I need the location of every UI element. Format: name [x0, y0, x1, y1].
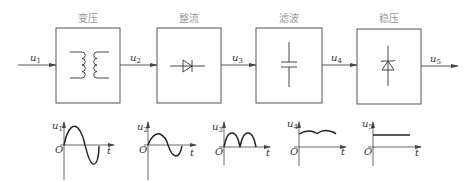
- waveform-u3: u3 O t: [212, 121, 271, 165]
- time-label-u2: t: [190, 147, 195, 158]
- origin-label-u3: O: [215, 146, 223, 157]
- stage-box-transform: [56, 28, 120, 103]
- stage-label-filter: 滤波: [279, 12, 299, 24]
- waveform-u4: u4 O t: [287, 118, 346, 166]
- stage-box-regulate: [357, 29, 421, 104]
- signal-label-u4: u4: [331, 52, 342, 65]
- axis-label-u2: u2: [137, 121, 148, 134]
- axis-label-u4: u4: [287, 118, 298, 131]
- stage-label-transform: 变压: [78, 12, 98, 24]
- axis-label-u3: u3: [212, 121, 223, 134]
- time-label-u5: t: [415, 147, 420, 158]
- axis-label-u5: u5: [362, 118, 373, 131]
- signal-label-u2: u2: [130, 52, 141, 65]
- stage-box-rectify: [157, 28, 221, 103]
- time-label-u1: t: [107, 145, 112, 156]
- power-supply-block-diagram: 变压 整流 滤波 稳压 u1 u2 u3 u4 u5: [0, 0, 471, 181]
- origin-label-u4: O: [290, 146, 298, 157]
- stage-label-regulate: 稳压: [379, 12, 399, 24]
- signal-label-u5: u5: [430, 53, 441, 66]
- signal-label-u1: u1: [30, 52, 41, 65]
- waveform-u5: u5 O t: [362, 118, 421, 166]
- time-label-u4: t: [341, 146, 346, 157]
- time-label-u3: t: [266, 147, 271, 158]
- origin-label-u5: O: [364, 146, 372, 157]
- origin-label-u1: O: [55, 144, 63, 155]
- stage-box-filter: [256, 28, 322, 103]
- origin-label-u2: O: [139, 144, 147, 155]
- signal-label-u3: u3: [232, 52, 243, 65]
- waveform-u2: u2 O t: [137, 121, 196, 180]
- stage-label-rectify: 整流: [179, 12, 199, 24]
- waveform-u1: u1 O t: [52, 120, 114, 180]
- axis-label-u1: u1: [52, 120, 63, 133]
